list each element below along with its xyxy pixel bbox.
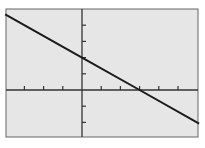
plot-background bbox=[6, 9, 198, 137]
line-graph bbox=[0, 0, 205, 148]
